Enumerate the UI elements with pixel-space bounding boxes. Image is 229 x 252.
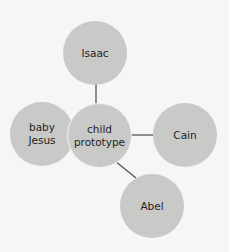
node-label: baby xyxy=(28,121,55,134)
node-label: child xyxy=(74,123,125,136)
node-baby-jesus: baby Jesus xyxy=(10,102,74,166)
node-cain: Cain xyxy=(153,103,217,167)
node-label: Isaac xyxy=(81,47,108,60)
node-child-prototype: child prototype xyxy=(67,103,132,168)
diagram-canvas: Isaac baby Jesus child prototype Cain Ab… xyxy=(0,0,229,252)
node-label: prototype xyxy=(74,136,125,149)
node-abel: Abel xyxy=(120,174,184,238)
edge-child-abel xyxy=(115,161,136,178)
node-label: Jesus xyxy=(28,134,55,147)
node-label: Cain xyxy=(173,129,196,142)
node-label: Abel xyxy=(140,200,163,213)
node-isaac: Isaac xyxy=(63,21,127,85)
